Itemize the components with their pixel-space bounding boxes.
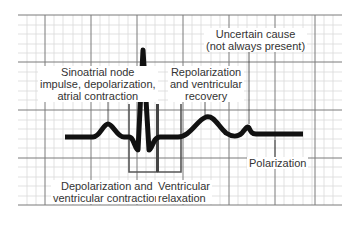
label-p-wave: Sinoatrial node impulse, depolarization,… [38,66,158,102]
label-qrs: Depolarization and ventricular contracti… [51,180,163,204]
label-st-segment: Ventricular relaxation [156,180,212,204]
label-t-wave: Repolarization and ventricular recovery [168,66,244,102]
label-u-wave: Uncertain cause (not always present) [204,28,307,52]
label-baseline: Polarization [247,157,308,169]
